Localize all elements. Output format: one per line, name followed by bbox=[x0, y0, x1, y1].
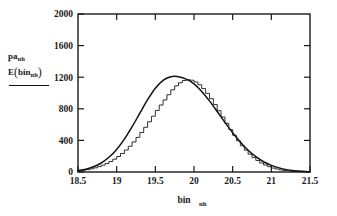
y-tick-label: 2000 bbox=[54, 9, 73, 19]
x-tick-label: 21.5 bbox=[302, 176, 319, 186]
plot-frame bbox=[78, 14, 310, 172]
y-tick-label: 800 bbox=[59, 104, 74, 114]
y-axis-legend: panh ˊE(binnh) bbox=[8, 52, 74, 86]
chart-svg: 0 400 800 1200 1600 2000 18.5 19 19.5 20… bbox=[0, 0, 337, 216]
y-axis-label-line1-sub: nh bbox=[18, 55, 25, 62]
expectation-arg-sub: nh bbox=[31, 71, 38, 78]
legend-line-swatch bbox=[9, 85, 49, 86]
plot-series bbox=[78, 76, 310, 172]
x-axis-ticks bbox=[78, 14, 310, 172]
y-axis-label-line1: panh bbox=[8, 52, 74, 63]
x-tick-label: 21 bbox=[267, 176, 277, 186]
y-tick-labels: 0 400 800 1200 1600 2000 bbox=[54, 9, 73, 177]
x-tick-labels: 18.5 19 19.5 20 20.5 21 21.5 bbox=[70, 176, 319, 186]
expectation-arg: bin bbox=[18, 67, 31, 77]
x-axis-title-main: bin bbox=[177, 195, 191, 205]
x-tick-label: 19 bbox=[112, 176, 122, 186]
y-axis-ticks bbox=[78, 14, 310, 172]
x-tick-label: 20 bbox=[189, 176, 199, 186]
x-axis-title-sub: nh bbox=[199, 200, 207, 207]
x-axis-title: bin nh bbox=[177, 195, 206, 207]
histogram-step-series bbox=[78, 80, 310, 172]
close-paren: ) bbox=[38, 65, 42, 79]
y-tick-label: 400 bbox=[59, 136, 74, 146]
x-tick-label: 20.5 bbox=[224, 176, 241, 186]
chart-figure: panh ˊE(binnh) bbox=[0, 0, 337, 216]
y-axis-label-line2: ˊE(binnh) bbox=[8, 66, 74, 79]
y-tick-label: 1600 bbox=[54, 41, 73, 51]
hat-accent-icon: ˊ bbox=[8, 61, 11, 69]
x-tick-label: 18.5 bbox=[70, 176, 87, 186]
x-tick-label: 19.5 bbox=[147, 176, 164, 186]
fitted-curve-series bbox=[78, 76, 310, 171]
